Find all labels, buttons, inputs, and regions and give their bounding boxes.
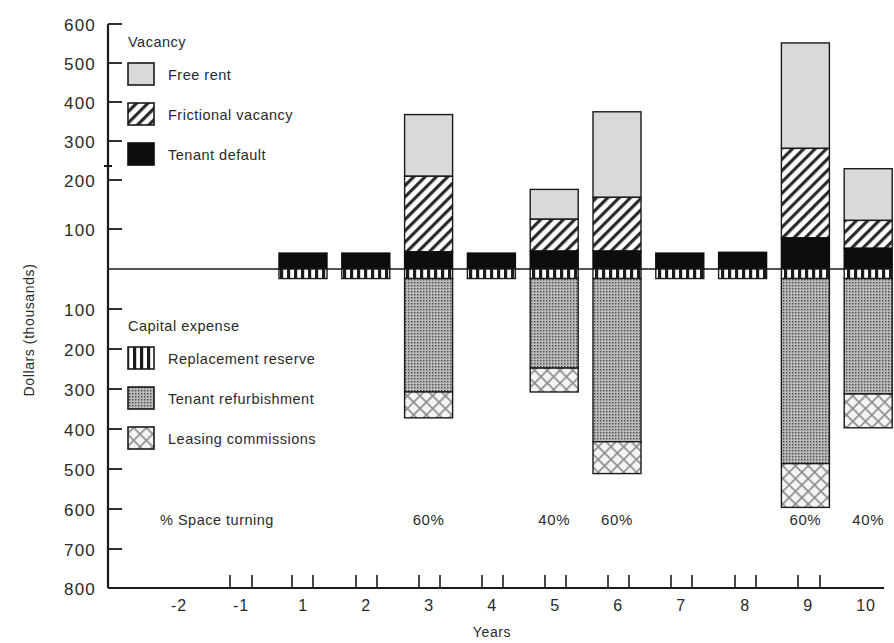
legend-swatch-free-rent bbox=[128, 63, 154, 85]
x-tick-label: 1 bbox=[298, 597, 308, 614]
bar-segment-tenant_default-year-7[interactable] bbox=[656, 253, 704, 269]
bar-segment-free_rent-year-3[interactable] bbox=[405, 115, 453, 177]
x-tick-label: 4 bbox=[487, 597, 497, 614]
bar-segment-replacement_reserve-year-1[interactable] bbox=[279, 269, 327, 279]
x-tick-label: 6 bbox=[613, 597, 623, 614]
bar-segment-replacement_reserve-year-8[interactable] bbox=[719, 269, 767, 279]
bar-group-year-9[interactable] bbox=[781, 43, 829, 507]
bar-segment-replacement_reserve-year-2[interactable] bbox=[342, 269, 390, 279]
bar-group-year-7[interactable] bbox=[656, 253, 704, 278]
space-turning-label-year-9: 60% bbox=[789, 511, 821, 528]
legend-label-frictional-vacancy: Frictional vacancy bbox=[168, 107, 293, 123]
bar-segment-free_rent-year-5[interactable] bbox=[530, 189, 578, 219]
bar-segment-frictional_vacancy-year-3[interactable] bbox=[405, 176, 453, 252]
bar-segment-tenant_default-year-9[interactable] bbox=[781, 238, 829, 269]
y-tick-label: 300 bbox=[64, 381, 96, 400]
bar-segment-replacement_reserve-year-6[interactable] bbox=[593, 269, 641, 279]
x-tick-label: 8 bbox=[740, 597, 750, 614]
legend-swatch-tenant-refurbishment bbox=[128, 387, 154, 409]
legend-label-free-rent: Free rent bbox=[168, 67, 231, 83]
space-turning-label-year-10: 40% bbox=[852, 511, 884, 528]
bar-group-year-5[interactable] bbox=[530, 189, 578, 392]
legend-label-tenant-default: Tenant default bbox=[168, 147, 266, 163]
x-tick-label: 9 bbox=[803, 597, 813, 614]
y-tick-label: 400 bbox=[64, 94, 96, 113]
x-axis-title: Years bbox=[473, 624, 511, 640]
y-tick-label: 200 bbox=[64, 341, 96, 360]
bar-group-year-10[interactable] bbox=[844, 169, 892, 428]
y-tick-label: 500 bbox=[64, 55, 96, 74]
space-turning-label-year-6: 60% bbox=[601, 511, 633, 528]
x-tick-label: 3 bbox=[424, 597, 434, 614]
bar-segment-tenant_default-year-10[interactable] bbox=[844, 248, 892, 269]
space-turning-row-label: % Space turning bbox=[160, 512, 274, 528]
bar-segment-replacement_reserve-year-7[interactable] bbox=[656, 269, 704, 279]
bar-segment-tenant_default-year-4[interactable] bbox=[467, 253, 515, 269]
legend-label-leasing-commissions: Leasing commissions bbox=[168, 431, 316, 447]
bar-segment-tenant_default-year-1[interactable] bbox=[279, 253, 327, 269]
bar-segment-tenant_refurbishment-year-6[interactable] bbox=[593, 279, 641, 442]
y-tick-label: 300 bbox=[64, 133, 96, 152]
x-tick-label: 10 bbox=[856, 597, 875, 614]
chart-root: 600 500 400 300 200 100 100 200 300 400 … bbox=[0, 0, 894, 643]
bar-segment-tenant_refurbishment-year-3[interactable] bbox=[405, 279, 453, 392]
bar-segment-tenant_refurbishment-year-10[interactable] bbox=[844, 279, 892, 394]
bar-segment-frictional_vacancy-year-9[interactable] bbox=[781, 148, 829, 238]
bar-segment-leasing_commissions-year-6[interactable] bbox=[593, 442, 641, 474]
bar-segment-leasing_commissions-year-5[interactable] bbox=[530, 368, 578, 392]
bar-segment-replacement_reserve-year-10[interactable] bbox=[844, 269, 892, 279]
bar-segment-leasing_commissions-year-10[interactable] bbox=[844, 394, 892, 428]
bar-group-year-6[interactable] bbox=[593, 112, 641, 474]
x-tick-label: -2 bbox=[171, 597, 187, 614]
x-tick-label: 5 bbox=[550, 597, 560, 614]
stacked-bar-chart: 600 500 400 300 200 100 100 200 300 400 … bbox=[0, 0, 894, 643]
bar-segment-replacement_reserve-year-9[interactable] bbox=[781, 269, 829, 279]
y-tick-label: 700 bbox=[64, 541, 96, 560]
bar-segment-free_rent-year-9[interactable] bbox=[781, 43, 829, 148]
bar-segment-frictional_vacancy-year-10[interactable] bbox=[844, 220, 892, 248]
y-axis-title: Dollars (thousands) bbox=[21, 264, 37, 397]
bar-segment-free_rent-year-6[interactable] bbox=[593, 112, 641, 198]
legend-capital-expense-title: Capital expense bbox=[128, 318, 240, 334]
legend-swatch-replacement-reserve bbox=[128, 347, 154, 369]
bar-segment-replacement_reserve-year-3[interactable] bbox=[405, 269, 453, 279]
bar-segment-tenant_default-year-2[interactable] bbox=[342, 253, 390, 269]
space-turning-label-year-5: 40% bbox=[538, 511, 570, 528]
x-tick-label: 7 bbox=[676, 597, 686, 614]
bar-group-year-1[interactable] bbox=[279, 253, 327, 278]
bar-segment-frictional_vacancy-year-5[interactable] bbox=[530, 219, 578, 251]
y-tick-label: 500 bbox=[64, 461, 96, 480]
legend-swatch-frictional-vacancy bbox=[128, 103, 154, 125]
legend-label-tenant-refurbishment: Tenant refurbishment bbox=[168, 391, 314, 407]
y-tick-label: 600 bbox=[64, 501, 96, 520]
bar-segment-replacement_reserve-year-4[interactable] bbox=[467, 269, 515, 279]
y-tick-label: 600 bbox=[64, 16, 96, 35]
bar-segment-tenant_default-year-6[interactable] bbox=[593, 251, 641, 269]
bar-group-year-2[interactable] bbox=[342, 253, 390, 278]
bar-segment-leasing_commissions-year-3[interactable] bbox=[405, 392, 453, 418]
bar-group-year-8[interactable] bbox=[719, 252, 767, 278]
bar-segment-tenant_default-year-3[interactable] bbox=[405, 252, 453, 269]
bar-group-year-4[interactable] bbox=[467, 253, 515, 278]
bar-segment-replacement_reserve-year-5[interactable] bbox=[530, 269, 578, 279]
y-tick-label: 100 bbox=[64, 301, 96, 320]
legend-swatch-tenant-default bbox=[128, 143, 154, 165]
bar-segment-tenant_default-year-5[interactable] bbox=[530, 251, 578, 269]
bar-group-year-3[interactable] bbox=[405, 115, 453, 418]
bar-segment-tenant_default-year-8[interactable] bbox=[719, 252, 767, 269]
y-tick-label: 800 bbox=[64, 580, 96, 599]
bar-segment-leasing_commissions-year-9[interactable] bbox=[781, 464, 829, 508]
space-turning-label-year-3: 60% bbox=[413, 511, 445, 528]
x-tick-label: 2 bbox=[361, 597, 371, 614]
bar-segment-tenant_refurbishment-year-5[interactable] bbox=[530, 279, 578, 369]
legend-label-replacement-reserve: Replacement reserve bbox=[168, 351, 315, 367]
bar-segment-free_rent-year-10[interactable] bbox=[844, 169, 892, 221]
bar-segment-frictional_vacancy-year-6[interactable] bbox=[593, 197, 641, 251]
bar-segment-tenant_refurbishment-year-9[interactable] bbox=[781, 279, 829, 464]
y-tick-label: 200 bbox=[64, 172, 96, 191]
legend-swatch-leasing-commissions bbox=[128, 427, 154, 449]
legend-vacancy-title: Vacancy bbox=[128, 34, 186, 50]
y-tick-label: 400 bbox=[64, 421, 96, 440]
x-tick-label: -1 bbox=[233, 597, 249, 614]
y-tick-label: 100 bbox=[64, 221, 96, 240]
